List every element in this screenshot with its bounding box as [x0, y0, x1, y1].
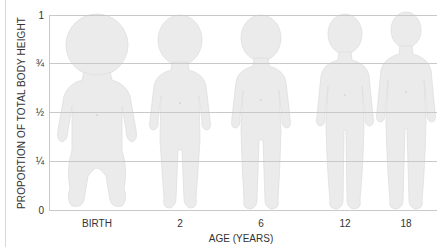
figure-age-12	[317, 14, 374, 209]
body-proportion-diagram	[0, 0, 447, 247]
figure-age-18	[377, 12, 436, 209]
x-axis-label: AGE (YEARS)	[209, 233, 273, 244]
x-tick-6: 6	[258, 218, 264, 229]
figure-age-2	[150, 15, 211, 208]
x-tick-2: 2	[177, 218, 183, 229]
x-tick-12: 12	[339, 218, 350, 229]
figure-birth	[58, 14, 137, 206]
x-tick-birth: BIRTH	[82, 218, 112, 229]
x-tick-18: 18	[400, 218, 411, 229]
